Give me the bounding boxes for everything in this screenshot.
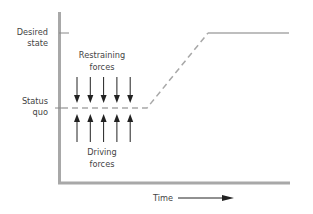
driving-forces-label: Driving bbox=[87, 147, 116, 157]
restraining-force-arrowhead bbox=[114, 95, 120, 103]
driving-force-arrowhead bbox=[101, 114, 107, 122]
status-quo-label-2: quo bbox=[33, 107, 48, 117]
restraining-forces-label: Restraining bbox=[79, 50, 125, 60]
restraining-force-arrowhead bbox=[101, 95, 107, 103]
driving-forces-label-2: forces bbox=[90, 159, 115, 169]
driving-force-arrowhead bbox=[127, 114, 133, 122]
force-field-diagram: Desired state Status quo Restraining for… bbox=[0, 0, 313, 214]
desired-state-label-2: state bbox=[27, 38, 48, 48]
time-arrow-head bbox=[222, 195, 234, 201]
restraining-force-arrowhead bbox=[127, 95, 133, 103]
status-quo-label: Status bbox=[22, 96, 48, 106]
status-quo-dashed-line bbox=[62, 33, 208, 108]
driving-force-arrowhead bbox=[114, 114, 120, 122]
driving-force-arrowhead bbox=[74, 114, 80, 122]
restraining-force-arrowhead bbox=[87, 95, 93, 103]
restraining-force-arrowhead bbox=[74, 95, 80, 103]
desired-state-label: Desired bbox=[17, 27, 48, 37]
driving-force-arrowhead bbox=[87, 114, 93, 122]
restraining-forces-label-2: forces bbox=[90, 62, 115, 72]
time-label: Time bbox=[152, 193, 173, 203]
